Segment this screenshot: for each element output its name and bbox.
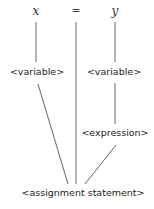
token-x: x: [33, 5, 40, 17]
node-variable-left: <variable>: [10, 67, 64, 77]
node-expression: <expression>: [81, 128, 148, 138]
node-assignment-statement: <assignment statement>: [21, 188, 144, 198]
edge-expression-to-assignment: [85, 145, 116, 184]
edge-variable-to-assignment: [38, 84, 68, 184]
parse-tree-diagram: x = y <variable> <variable> <expression>…: [0, 0, 154, 209]
token-equals: =: [71, 5, 80, 16]
node-variable-right: <variable>: [87, 67, 141, 77]
tree-edges: [0, 0, 154, 209]
token-y: y: [112, 5, 119, 17]
